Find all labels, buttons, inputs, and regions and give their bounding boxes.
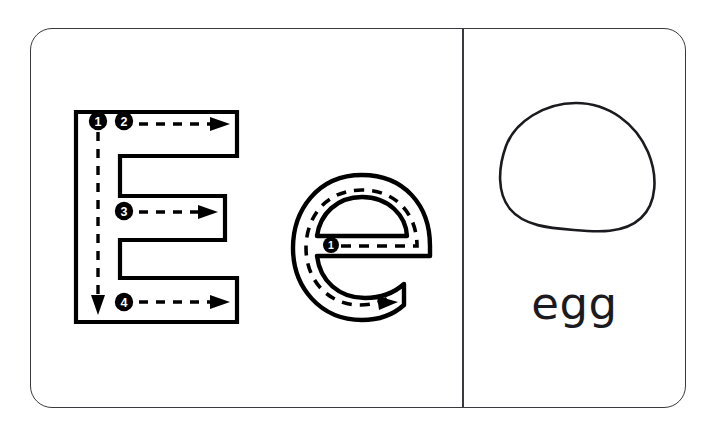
stroke-badge-1-uppercase: 1 [89,112,107,130]
stroke-badge-3-uppercase: 3 [115,202,133,220]
picture-word-label: egg [463,281,686,326]
stroke-badge-2-uppercase: 2 [115,112,133,130]
stroke-badge-1-lowercase: 1 [323,237,339,253]
stroke-badge-4-uppercase-label: 4 [121,296,128,310]
stroke-badge-3-uppercase-label: 3 [121,205,128,219]
stroke-badge-1-lowercase-label: 1 [328,239,334,251]
letter-practice-artwork: 1 2 3 4 1 [0,0,716,432]
egg-illustration [500,103,654,231]
stroke-badge-1-uppercase-label: 1 [95,115,102,129]
flashcard-stage: 1 2 3 4 1 [0,0,716,432]
uppercase-e-outline [76,112,237,322]
stroke-badge-4-uppercase: 4 [115,293,133,311]
stroke-badge-2-uppercase-label: 2 [121,115,128,129]
